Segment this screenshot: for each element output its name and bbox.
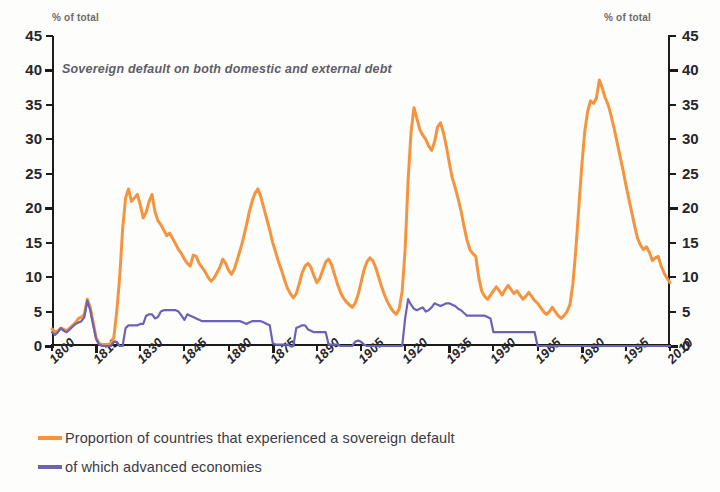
series-layer — [52, 36, 670, 346]
legend-label-all-countries: Proportion of countries that experienced… — [65, 430, 455, 446]
series-line-all-countries — [52, 80, 670, 345]
legend-item-all-countries: Proportion of countries that experienced… — [38, 428, 698, 448]
y-label-left-25: 25 — [8, 166, 42, 181]
y-label-left-5: 5 — [8, 304, 42, 319]
y-label-left-45: 45 — [8, 28, 42, 43]
y-label-left-20: 20 — [8, 200, 42, 215]
y-label-left-40: 40 — [8, 62, 42, 77]
y-label-right-15: 15 — [682, 235, 716, 250]
y-label-right-20: 20 — [682, 200, 716, 215]
plot-area: 051015202530354045 051015202530354045 18… — [52, 36, 670, 346]
y-label-left-0: 0 — [8, 338, 42, 353]
y-label-right-35: 35 — [682, 97, 716, 112]
y-label-right-40: 40 — [682, 62, 716, 77]
y-label-right-45: 45 — [682, 28, 716, 43]
y-label-left-30: 30 — [8, 131, 42, 146]
legend-item-advanced-economies: of which advanced economies — [38, 457, 698, 477]
y-label-left-35: 35 — [8, 97, 42, 112]
y-label-right-30: 30 — [682, 131, 716, 146]
left-axis-unit-caption: % of total — [52, 12, 99, 23]
y-label-left-15: 15 — [8, 235, 42, 250]
right-axis-unit-caption: % of total — [604, 12, 651, 23]
legend-swatch-advanced-economies — [38, 465, 62, 469]
legend-label-advanced-economies: of which advanced economies — [65, 459, 262, 475]
series-line-advanced-economies — [52, 299, 670, 346]
sovereign-default-chart: % of total % of total Sovereign default … — [0, 0, 720, 492]
y-label-left-10: 10 — [8, 269, 42, 284]
legend-swatch-all-countries — [38, 436, 62, 440]
y-label-right-10: 10 — [682, 269, 716, 284]
y-label-right-25: 25 — [682, 166, 716, 181]
y-label-right-5: 5 — [682, 304, 716, 319]
legend: Proportion of countries that experienced… — [38, 428, 698, 486]
